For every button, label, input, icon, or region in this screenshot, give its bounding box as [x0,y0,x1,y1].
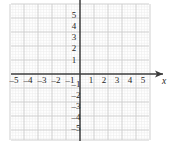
x-tick-label-neg3: –3 [37,75,48,85]
coordinate-plane-figure: x –5 –4 –3 –2 –1 1 2 3 4 5 5 4 3 2 1 –1 … [0,0,176,152]
x-tick-label-neg5: –5 [9,75,20,85]
y-tick-label-5: 5 [72,10,77,20]
y-tick-label-1: 1 [72,55,77,65]
y-tick-label-neg4: –4 [71,112,82,122]
coordinate-plane-svg: x –5 –4 –3 –2 –1 1 2 3 4 5 5 4 3 2 1 –1 … [0,0,176,152]
y-tick-label-2: 2 [72,43,77,53]
x-tick-label-neg2: –2 [51,75,61,85]
y-tick-label-4: 4 [72,21,77,31]
axis-lines [11,0,163,141]
x-axis-label: x [161,76,167,86]
x-tick-label-neg4: –4 [23,75,34,85]
y-tick-label-neg1: –1 [71,79,81,89]
y-tick-label-neg3: –3 [71,101,82,111]
x-tick-label-5: 5 [141,75,146,85]
x-tick-label-2: 2 [102,75,107,85]
y-tick-label-neg2: –2 [71,90,81,100]
x-tick-label-1: 1 [89,75,94,85]
x-tick-label-4: 4 [128,75,133,85]
y-tick-label-3: 3 [72,32,77,42]
y-tick-label-neg5: –5 [71,123,82,133]
x-tick-label-3: 3 [115,75,120,85]
